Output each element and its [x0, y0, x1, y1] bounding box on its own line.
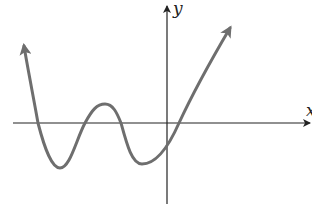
x-axis-label: x — [306, 100, 312, 120]
function-graph — [0, 0, 312, 206]
curve — [24, 28, 230, 168]
y-axis-label: y — [173, 0, 183, 18]
